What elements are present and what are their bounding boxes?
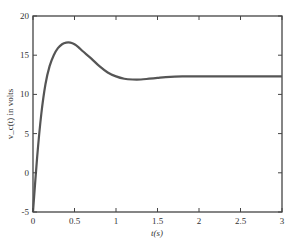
y-tick-label: 0 <box>25 168 30 178</box>
y-tick-label: 5 <box>25 129 30 139</box>
line-chart: 00.511.522.53 -505101520 t(s) v_c(t) in … <box>0 0 290 246</box>
plot-area <box>33 16 282 212</box>
y-tick-label: 20 <box>20 11 30 21</box>
x-tick-label: 3 <box>280 216 285 226</box>
x-axis: 00.511.522.53 <box>31 16 285 226</box>
x-tick-label: 2.5 <box>235 216 247 226</box>
x-tick-label: 2 <box>197 216 202 226</box>
y-axis-label: v_c(t) in volts <box>5 88 15 139</box>
x-tick-label: 1 <box>114 216 119 226</box>
x-tick-label: 1.5 <box>152 216 164 226</box>
y-tick-label: 15 <box>20 50 30 60</box>
y-axis: -505101520 <box>20 11 282 217</box>
series-line <box>33 42 282 212</box>
plot-frame <box>33 16 282 212</box>
y-tick-label: 10 <box>20 89 30 99</box>
x-axis-label: t(s) <box>151 228 163 238</box>
x-tick-label: 0 <box>31 216 36 226</box>
x-tick-label: 0.5 <box>69 216 81 226</box>
y-tick-label: -5 <box>22 207 30 217</box>
